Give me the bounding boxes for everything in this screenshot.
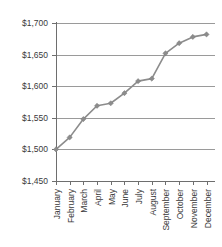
x-axis-tick-label: March	[79, 189, 89, 213]
y-axis-tick-label: $1,700	[22, 18, 48, 28]
y-axis-tick-label: $1,600	[22, 81, 48, 91]
x-axis-tick-label: July	[134, 188, 144, 204]
x-axis-tick-label: September	[161, 189, 171, 231]
data-point-marker	[190, 34, 195, 39]
data-point-marker	[204, 32, 209, 37]
data-point-markers-group	[53, 32, 209, 152]
x-axis-tick-label: November	[189, 189, 199, 228]
x-axis-tick-label: December	[203, 189, 213, 228]
y-axis-tick-label: $1,450	[22, 176, 48, 186]
x-axis-tick-label: January	[52, 188, 62, 219]
gridlines-group	[56, 24, 215, 150]
chart-canvas: $1,450$1,500$1,550$1,600$1,650$1,700 Jan…	[0, 0, 222, 247]
x-axis-tick-label: April	[93, 189, 103, 206]
y-axis-tick-label: $1,500	[22, 144, 48, 154]
x-axis-tick-label: October	[175, 189, 185, 219]
series-line-path	[56, 34, 207, 149]
x-axis-tick-label: August	[148, 188, 158, 215]
line-chart: $1,450$1,500$1,550$1,600$1,650$1,700 Jan…	[0, 0, 222, 247]
y-axis-tick-label: $1,550	[22, 113, 48, 123]
x-axis-tick-label: February	[66, 188, 76, 223]
x-axis-labels-group: JanuaryFebruaryMarchAprilMayJuneJulyAugu…	[52, 188, 213, 230]
y-axis-labels-group: $1,450$1,500$1,550$1,600$1,650$1,700	[22, 18, 48, 186]
x-axis-tick-label: May	[107, 188, 117, 205]
y-axis-tick-label: $1,650	[22, 50, 48, 60]
x-axis-tick-label: June	[120, 189, 130, 208]
